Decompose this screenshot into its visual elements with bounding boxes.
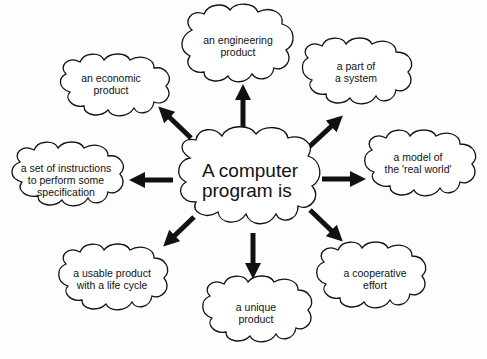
- node-label-economic: an economic product: [81, 72, 141, 96]
- node-label-model: a model of the 'real world': [384, 151, 451, 175]
- node-label-usable: a usable product with a life cycle: [73, 267, 151, 291]
- arrow-down-left: [169, 217, 194, 241]
- center-label: A computer program is: [202, 161, 298, 201]
- node-label-engineering: an engineering product: [203, 34, 272, 58]
- arrow-up-right: [309, 121, 337, 147]
- arrow-down-right: [310, 210, 337, 236]
- node-label-cooperative: a cooperative effort: [343, 267, 406, 291]
- node-label-instructions: a set of instructions to perform some sp…: [21, 162, 111, 198]
- mind-map-diagram: A computer program is an engineering pro…: [0, 0, 487, 359]
- node-label-system: a part of a system: [335, 60, 377, 84]
- arrow-up-left: [164, 112, 191, 138]
- node-label-unique: a unique product: [236, 301, 276, 325]
